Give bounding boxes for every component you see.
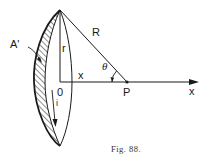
label-axis: x <box>189 85 195 97</box>
right-arc <box>60 10 72 146</box>
hatched-area <box>34 10 60 146</box>
label-slant: R <box>92 26 100 38</box>
label-origin: 0 <box>57 86 63 98</box>
current-arrow-line <box>52 90 55 122</box>
label-current: i <box>56 98 58 108</box>
figure-diagram: A' r x R θ P x 0 i Fig. 88. <box>0 0 203 158</box>
label-radius: r <box>62 42 66 54</box>
figure-caption: Fig. 88. <box>111 144 141 154</box>
label-area: A' <box>10 38 19 50</box>
label-angle: θ <box>102 60 108 72</box>
label-distance: x <box>78 69 84 81</box>
angle-arrow-icon <box>111 77 115 82</box>
label-point: P <box>123 86 130 98</box>
current-arrow-icon <box>53 119 58 127</box>
slant-line <box>60 10 127 82</box>
point-p <box>125 80 128 83</box>
